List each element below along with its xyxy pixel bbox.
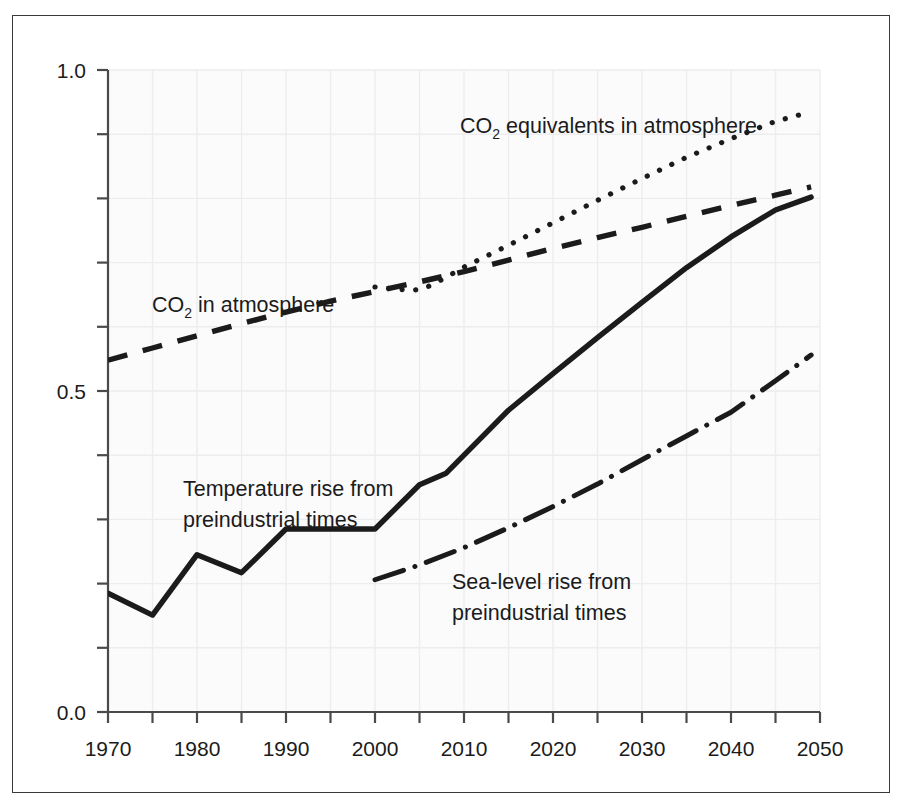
x-tick-label: 2030 bbox=[619, 737, 666, 760]
y-axis-ticks bbox=[97, 70, 108, 712]
label-temperature-line1: Temperature rise from bbox=[183, 477, 393, 501]
x-tick-label: 2020 bbox=[530, 737, 577, 760]
x-axis-ticks bbox=[108, 712, 820, 723]
x-tick-label: 1980 bbox=[174, 737, 221, 760]
label-co2: CO2 in atmosphere bbox=[152, 293, 334, 321]
x-axis-tick-labels: 197019801990200020102020203020402050 bbox=[85, 737, 844, 760]
x-tick-label: 2000 bbox=[352, 737, 399, 760]
x-tick-label: 2010 bbox=[441, 737, 488, 760]
y-axis-tick-labels: 0.00.51.0 bbox=[57, 59, 86, 724]
chart-page: 0.00.51.0 197019801990200020102020203020… bbox=[0, 0, 904, 809]
x-tick-label: 2040 bbox=[708, 737, 755, 760]
plot-container: 0.00.51.0 197019801990200020102020203020… bbox=[0, 0, 904, 809]
label-sea-level-line1: Sea-level rise from bbox=[452, 570, 631, 594]
line-chart: 0.00.51.0 197019801990200020102020203020… bbox=[0, 0, 904, 809]
label-temperature-line2: preindustrial times bbox=[183, 508, 357, 532]
label-sea-level-line2: preindustrial times bbox=[452, 601, 626, 625]
x-tick-label: 1990 bbox=[263, 737, 310, 760]
x-tick-label: 2050 bbox=[797, 737, 844, 760]
x-tick-label: 1970 bbox=[85, 737, 132, 760]
y-tick-label: 1.0 bbox=[57, 59, 86, 82]
y-tick-label: 0.0 bbox=[57, 701, 86, 724]
y-tick-label: 0.5 bbox=[57, 380, 86, 403]
label-co2-equivalents: CO2 equivalents in atmosphere bbox=[460, 114, 757, 142]
